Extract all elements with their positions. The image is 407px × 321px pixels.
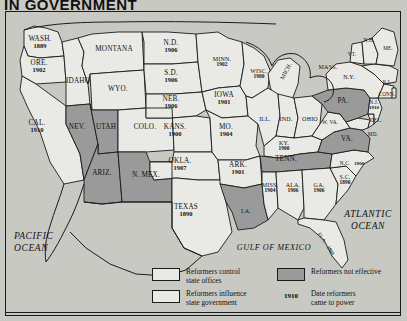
state-shape-WA (24, 26, 64, 58)
legend-item-2: Reformers not effective (277, 267, 381, 281)
legend-label-0: Reformers control state offices (186, 267, 240, 285)
state-shape-MN (196, 32, 244, 92)
legend-label-2: Reformers not effective (311, 267, 381, 276)
map-figure: IN GOVERNMENT .st{stroke:#1a1a1a;stroke-… (0, 0, 407, 321)
legend-item-1: Reformers influence state government (152, 289, 247, 307)
state-shape-AL (276, 170, 304, 220)
legend-swatch-reformers-control (152, 268, 180, 281)
state-shape-SD (144, 62, 202, 94)
legend-label-3: Date reformers came to power (311, 289, 356, 307)
state-shape-ND (142, 32, 198, 64)
state-shape-FL (298, 218, 348, 268)
state-shape-RI (392, 88, 396, 98)
legend-item-0: Reformers control state offices (152, 267, 240, 285)
state-shape-WY (90, 70, 146, 110)
map-legend: Reformers control state offices Reformer… (5, 262, 401, 316)
legend-item-3: 1910 Date reformers came to power (277, 289, 356, 307)
legend-swatch-reformers-influence (152, 290, 180, 303)
figure-title: IN GOVERNMENT (4, 0, 404, 10)
legend-label-1: Reformers influence state government (186, 289, 247, 307)
state-shape-GA (302, 168, 338, 220)
legend-date-key: 1910 (277, 292, 305, 300)
state-shape-AR (218, 156, 262, 188)
legend-bottom-rule (5, 312, 401, 313)
legend-swatch-not-effective (277, 268, 305, 281)
baja-california (45, 184, 84, 262)
coastline-detail (24, 22, 276, 30)
